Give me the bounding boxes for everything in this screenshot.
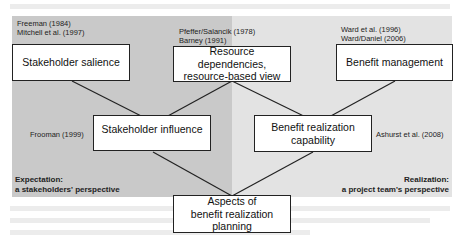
expectation-title: Expectation:	[15, 175, 63, 185]
reference-ashurst: Ashurst et al. (2008)	[376, 130, 444, 139]
reference-mitchell: Mitchell et al. (1997)	[17, 28, 85, 37]
box-aspects-of-benefit-realization-planning: Aspects of benefit realization planning	[173, 195, 291, 233]
box-label-line1: Aspects of	[207, 195, 256, 208]
box-label-line3: planning	[212, 220, 252, 233]
box-label: Stakeholder influence	[102, 123, 203, 136]
reference-ward-daniel: Ward/Daniel (2006)	[341, 34, 406, 43]
box-label-line1: Resource	[210, 45, 255, 58]
box-label-line2: benefit realization	[191, 208, 273, 221]
box-benefit-management: Benefit management	[336, 44, 453, 81]
reference-frooman: Frooman (1999)	[30, 130, 84, 139]
box-benefit-realization-capability: Benefit realization capability	[254, 115, 372, 152]
reference-pfeffer: Pfeffer/Salancik (1978)	[179, 27, 255, 36]
box-label: Benefit management	[346, 56, 443, 69]
box-label: Stakeholder salience	[22, 56, 119, 69]
box-resource-dependencies: Resource dependencies, resource-based vi…	[173, 46, 291, 82]
reference-barney: Barney (1991)	[179, 36, 227, 45]
box-stakeholder-influence: Stakeholder influence	[93, 115, 211, 151]
box-label-line3: resource-based view	[184, 70, 281, 83]
realization-title: Realization:	[404, 175, 449, 185]
reference-ward-1996: Ward et al. (1996)	[341, 25, 401, 34]
realization-subtitle: a project team's perspective	[342, 185, 449, 195]
expectation-subtitle: a stakeholders' perspective	[15, 185, 120, 195]
box-stakeholder-salience: Stakeholder salience	[12, 44, 130, 81]
box-label-line2: capability	[291, 134, 335, 147]
box-label-line1: Benefit realization	[271, 121, 354, 134]
reference-freeman: Freeman (1984)	[17, 19, 71, 28]
box-label-line2: dependencies,	[198, 58, 266, 71]
